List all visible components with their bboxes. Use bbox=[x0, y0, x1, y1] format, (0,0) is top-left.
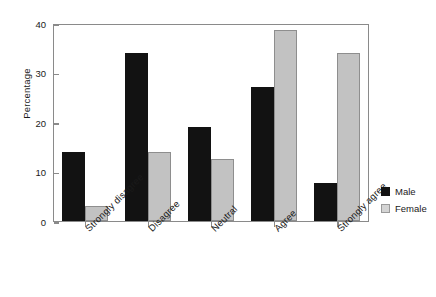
bar-group bbox=[251, 25, 297, 221]
y-tick-label: 10 bbox=[35, 167, 46, 178]
y-tick-label: 20 bbox=[35, 118, 46, 129]
male-swatch-icon bbox=[381, 187, 390, 196]
legend-item-female: Female bbox=[381, 203, 427, 214]
y-tick-mark bbox=[54, 74, 59, 75]
bar-groups bbox=[54, 25, 368, 221]
bar-chart: Percentage 010203040 Strongly disagreeDi… bbox=[0, 0, 436, 297]
plot-area: 010203040 bbox=[53, 24, 369, 222]
legend-item-male: Male bbox=[381, 186, 427, 197]
x-axis-labels: Strongly disagreeDisagreeNeutralAgreeStr… bbox=[53, 226, 369, 296]
bar-group bbox=[188, 25, 234, 221]
bar-group bbox=[62, 25, 108, 221]
legend-label-female: Female bbox=[395, 203, 427, 214]
y-tick-mark bbox=[54, 123, 59, 124]
bar-male bbox=[314, 183, 337, 221]
bar-male bbox=[188, 127, 211, 221]
y-axis-label: Percentage bbox=[21, 34, 32, 154]
legend-label-male: Male bbox=[395, 186, 416, 197]
y-tick-label: 30 bbox=[35, 68, 46, 79]
y-tick-label: 0 bbox=[41, 217, 46, 228]
bar-male bbox=[251, 87, 274, 221]
y-tick-label: 40 bbox=[35, 19, 46, 30]
bar-female bbox=[337, 53, 360, 221]
chart-legend: Male Female bbox=[381, 186, 427, 214]
bar-male bbox=[62, 152, 85, 221]
y-tick-mark bbox=[54, 173, 59, 174]
bar-group bbox=[314, 25, 360, 221]
bar-female bbox=[274, 30, 297, 221]
female-swatch-icon bbox=[381, 204, 390, 213]
y-tick-mark bbox=[54, 24, 59, 25]
